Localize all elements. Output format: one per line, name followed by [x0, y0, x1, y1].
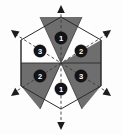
hexagon-sector-figure: 1 2 3 1 2 3: [0, 0, 122, 135]
sector-label-upper-right-text: 2: [79, 47, 83, 56]
hexagon-diagram-svg: 1 2 3 1 2 3: [0, 0, 122, 135]
sector-label-lower-left-text: 2: [38, 72, 42, 81]
sector-label-top: 1: [55, 32, 67, 44]
sector-label-lower-left: 2: [34, 70, 46, 82]
sector-label-upper-left: 3: [34, 45, 46, 57]
sector-label-bottom: 1: [55, 83, 67, 95]
sector-label-lower-right-text: 3: [79, 72, 83, 81]
sector-label-bottom-text: 1: [59, 85, 63, 94]
sector-label-upper-right: 2: [75, 45, 87, 57]
sector-label-upper-left-text: 3: [38, 47, 42, 56]
sector-label-lower-right: 3: [75, 70, 87, 82]
sector-label-top-text: 1: [59, 34, 63, 43]
